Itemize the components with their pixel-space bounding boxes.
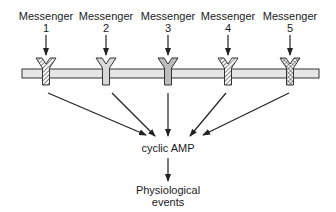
messenger-1-label: Messenger 1 <box>16 10 76 34</box>
messenger-5-label: Messenger 5 <box>260 10 320 34</box>
messenger-arrows <box>46 35 290 55</box>
messenger-number: 3 <box>138 22 198 34</box>
converging-arrows <box>48 93 289 136</box>
messenger-label-text: Messenger <box>260 10 320 22</box>
messenger-number: 5 <box>260 22 320 34</box>
signaling-diagram: Messenger 1 Messenger 2 Messenger 3 Mess… <box>0 0 336 212</box>
messenger-2-label: Messenger 2 <box>76 10 136 34</box>
messenger-label-text: Messenger <box>138 10 198 22</box>
messenger-label-text: Messenger <box>16 10 76 22</box>
outcome-line-1: Physiological <box>123 184 213 196</box>
messenger-3-label: Messenger 3 <box>138 10 198 34</box>
messenger-number: 2 <box>76 22 136 34</box>
messenger-label-text: Messenger <box>76 10 136 22</box>
messenger-label-text: Messenger <box>198 10 258 22</box>
cyclic-amp-label: cyclic AMP <box>128 142 208 154</box>
messenger-number: 1 <box>16 22 76 34</box>
messenger-number: 4 <box>198 22 258 34</box>
messenger-4-label: Messenger 4 <box>198 10 258 34</box>
physiological-events-label: Physiological events <box>123 184 213 208</box>
outcome-line-2: events <box>123 196 213 208</box>
